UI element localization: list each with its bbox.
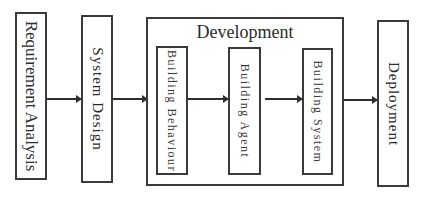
arrow-system-design-to-development (113, 98, 147, 100)
building-agent-label: Building Agent (239, 64, 251, 159)
requirement-analysis-box: Requirement Analysis (15, 12, 47, 180)
building-system-box: Building System (302, 48, 333, 175)
development-title: Development (148, 23, 342, 41)
process-flow-diagram: Requirement Analysis System Design Devel… (0, 0, 423, 199)
building-behaviour-box: Building Behaviour (156, 46, 188, 175)
building-behaviour-label: Building Behaviour (166, 50, 178, 172)
arrow-behaviour-to-agent (188, 98, 228, 100)
deployment-label: Deployment (386, 61, 401, 145)
system-design-box: System Design (81, 15, 113, 183)
arrow-agent-to-system (265, 98, 302, 100)
deployment-box: Deployment (377, 20, 409, 187)
system-design-label: System Design (90, 47, 105, 150)
arrow-development-to-deployment (344, 99, 377, 101)
building-system-label: Building System (312, 60, 324, 163)
arrow-requirement-to-system-design (47, 98, 81, 100)
requirement-analysis-label: Requirement Analysis (23, 21, 40, 172)
building-agent-box: Building Agent (228, 47, 261, 175)
